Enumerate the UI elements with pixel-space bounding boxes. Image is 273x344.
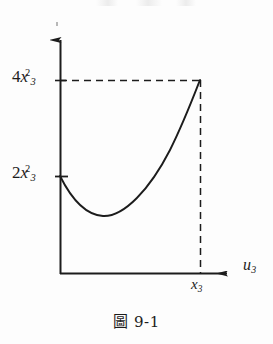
guide-lines-group (60, 80, 201, 274)
y-axis-label-upper: 4x23 (12, 68, 36, 87)
figure-caption: 圖 9-1 (0, 310, 273, 331)
plot-canvas (0, 0, 273, 344)
ystart-subscript: 3 (31, 172, 36, 183)
y-axis-label-lower: 2x23 (12, 164, 36, 183)
figure-container: 4x23 2x23 u3 x3 圖 9-1 (0, 0, 273, 344)
xtick-base: x (191, 276, 198, 292)
xaxis-base: u (243, 256, 251, 273)
objective-curve (60, 80, 200, 216)
ystart-coefficient: 2 (12, 163, 21, 182)
ymax-superscript: 2 (25, 67, 30, 78)
ymax-subscript: 3 (31, 76, 36, 87)
ystart-superscript: 2 (25, 163, 30, 174)
x-axis-variable-label: u3 (243, 257, 256, 275)
xaxis-subscript: 3 (251, 264, 256, 275)
x-axis-tick-label: x3 (191, 277, 203, 294)
axes-group (60, 40, 227, 274)
ymax-coefficient: 4 (12, 67, 21, 86)
xtick-subscript: 3 (198, 284, 203, 294)
